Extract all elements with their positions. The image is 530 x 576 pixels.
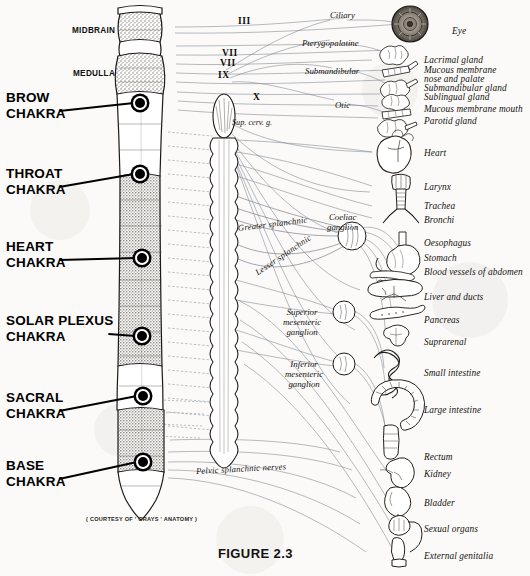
- chakra-node-brow: [131, 94, 150, 113]
- organ-label-eye: Eye: [452, 26, 466, 37]
- chakra-label-line1: SOLAR PLEXUS: [6, 313, 113, 329]
- organ-label-stomach: Stomach: [424, 253, 457, 264]
- ganglion-label-line: mesenteric: [283, 317, 321, 327]
- ganglion-label-coeliac: Coeliacganglion: [327, 212, 358, 232]
- sup-cervical-ganglion-label: Sup. cerv. g.: [232, 118, 272, 127]
- ganglion-label-line: mesenteric: [285, 369, 323, 379]
- organ-label-sublingual-gland: Sublingual gland: [424, 92, 489, 103]
- chakra-label-line1: THROAT: [6, 166, 66, 182]
- chakra-label-brow: BROWCHAKRA: [6, 90, 66, 122]
- figure-caption: FIGURE 2.3: [218, 546, 293, 561]
- chakra-label-throat: THROATCHAKRA: [6, 166, 66, 198]
- organ-label-blood-vessels-of-abdomen: Blood vessels of abdomen: [424, 267, 523, 278]
- organ-label-large-intestine: Large intestine: [424, 405, 481, 416]
- cranial-nerve-VII-2: VII: [220, 58, 236, 68]
- chakra-node-base: [134, 453, 153, 472]
- chakra-node-sacral: [134, 387, 153, 406]
- cranial-nerve-VII-1: VII: [222, 48, 238, 58]
- region-label-midbrain: MIDBRAIN: [72, 26, 115, 35]
- ganglion-label-ciliary: Ciliary: [330, 10, 355, 20]
- organ-label-bladder: Bladder: [424, 498, 455, 509]
- chakra-label-line2: CHAKRA: [6, 474, 66, 490]
- chakra-label-heart: HEARTCHAKRA: [6, 239, 66, 271]
- ganglion-label-line: ganglion: [283, 327, 321, 337]
- ganglion-label-submandibular: Submandibular: [305, 66, 359, 76]
- chakra-label-line2: CHAKRA: [6, 406, 66, 422]
- ganglion-label-line: Superior: [283, 307, 321, 317]
- ganglion-label-line: Coeliac: [327, 212, 358, 222]
- courtesy-note: ( COURTESY OF ' GRAYS ' ANATOMY ): [86, 516, 197, 522]
- organ-label-mucous-membrane-mouth: Mucous membrane mouth: [424, 104, 523, 115]
- organ-label-external-genitalia: External genitalia: [424, 551, 493, 562]
- organ-label-oesophagus: Oesophagus: [424, 238, 471, 249]
- chakra-label-line2: CHAKRA: [6, 255, 66, 271]
- ganglion-label-otic: Otic: [335, 100, 350, 110]
- ganglion-label-superior: Superiormesentericganglion: [283, 307, 321, 337]
- chakra-node-throat: [131, 165, 150, 184]
- chakra-leader-brow: [59, 103, 134, 111]
- ganglion-label-line: ganglion: [285, 379, 323, 389]
- ganglion-label-pterygopalatine: Pterygopalatine: [302, 38, 359, 48]
- cranial-nerve-X-4: X: [253, 92, 260, 102]
- chakra-leader-sacral: [59, 396, 137, 411]
- organ-label-suprarenal: Suprarenal: [424, 337, 467, 348]
- organ-label-kidney: Kidney: [424, 469, 451, 480]
- cranial-nerve-III-0: III: [238, 16, 251, 26]
- ganglion-label-line: ganglion: [327, 222, 358, 232]
- chakra-label-line1: BASE: [6, 458, 66, 474]
- organ-label-sexual-organs: Sexual organs: [424, 524, 478, 535]
- chakra-node-solar-plexus: [133, 327, 152, 346]
- chakra-leader-throat: [59, 174, 134, 187]
- ganglion-label-inferior: Inferiormesentericganglion: [285, 359, 323, 389]
- organ-label-small-intestine: Small intestine: [424, 368, 481, 379]
- chakra-leader-base: [59, 462, 137, 479]
- chakra-label-line1: SACRAL: [6, 390, 66, 406]
- figure-root: MIDBRAINMEDULLABROWCHAKRATHROATCHAKRAHEA…: [0, 0, 530, 576]
- chakra-label-solar-plexus: SOLAR PLEXUSCHAKRA: [6, 313, 113, 345]
- organ-label-parotid-gland: Parotid gland: [424, 116, 477, 127]
- organ-label-bronchi: Bronchi: [424, 215, 454, 226]
- organ-label-pancreas: Pancreas: [424, 315, 460, 326]
- region-label-medulla: MEDULLA: [73, 69, 115, 78]
- chakra-label-base: BASECHAKRA: [6, 458, 66, 490]
- chakra-label-sacral: SACRALCHAKRA: [6, 390, 66, 422]
- cranial-nerve-IX-3: IX: [218, 70, 230, 80]
- chakra-node-heart: [133, 249, 152, 268]
- organ-label-liver-and-ducts: Liver and ducts: [424, 292, 483, 303]
- chakra-label-line1: HEART: [6, 239, 66, 255]
- organ-label-trachea: Trachea: [424, 201, 455, 212]
- chakra-leader-heart: [59, 258, 136, 260]
- chakra-label-line2: CHAKRA: [6, 182, 66, 198]
- organ-label-heart: Heart: [424, 148, 446, 159]
- chakra-label-line2: CHAKRA: [6, 106, 66, 122]
- chakra-label-line1: BROW: [6, 90, 66, 106]
- organ-label-rectum: Rectum: [424, 452, 452, 463]
- ganglion-label-line: Inferior: [285, 359, 323, 369]
- chakra-label-line2: CHAKRA: [6, 329, 113, 345]
- organ-label-larynx: Larynx: [424, 182, 451, 193]
